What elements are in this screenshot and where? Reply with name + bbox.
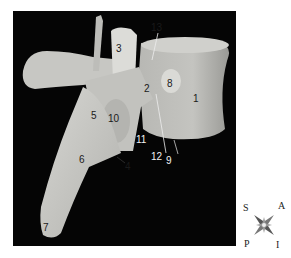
label-3: 3: [116, 44, 122, 54]
label-12: 12: [151, 152, 162, 162]
compass-posterior: P: [244, 239, 250, 249]
compass-anterior: A: [278, 201, 285, 211]
vertebra-photo: 1 2 3 4 5 6 7 8 9 10 11 12 13: [13, 11, 236, 246]
label-7: 7: [43, 223, 49, 233]
label-5: 5: [91, 111, 97, 121]
vertebra-illustration: [13, 11, 236, 246]
label-1: 1: [193, 94, 199, 104]
label-11: 11: [136, 135, 146, 145]
label-6: 6: [79, 155, 85, 165]
label-9: 9: [166, 156, 172, 166]
vertebral-body: [139, 41, 229, 140]
label-13: 13: [151, 23, 162, 33]
label-8: 8: [167, 79, 173, 89]
label-4: 4: [125, 162, 131, 172]
compass-superior: S: [243, 203, 249, 213]
label-2: 2: [144, 84, 150, 94]
orientation-compass: S A P I: [240, 200, 288, 250]
compass-inferior: I: [276, 240, 279, 250]
label-10: 10: [108, 114, 119, 124]
